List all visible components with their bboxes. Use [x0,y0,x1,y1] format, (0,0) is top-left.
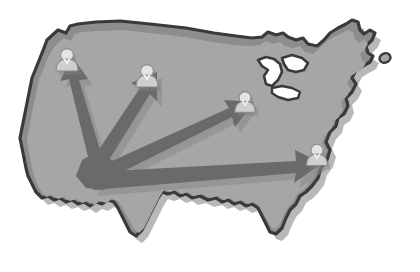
northeast-island [378,51,392,64]
user-icon-body [307,154,328,165]
us-map-graphic [0,0,420,272]
figure-canvas: United States distribution map Grayscale… [0,0,420,272]
